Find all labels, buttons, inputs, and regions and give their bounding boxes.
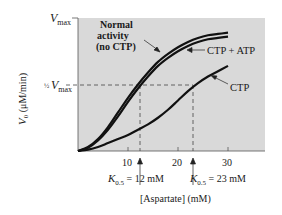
kinetics-chart: Vmax ½ Vmax V0 (μM/min) Normal activity … bbox=[0, 0, 282, 215]
x-tick-20: 20 bbox=[172, 157, 182, 168]
vmax-label: Vmax bbox=[50, 11, 71, 27]
k05-12-label: K0.5 = 12 mM bbox=[107, 172, 164, 187]
x-tick-30: 30 bbox=[222, 157, 232, 168]
ctp-atp-label: CTP + ATP bbox=[207, 45, 255, 56]
x-tick-10: 10 bbox=[122, 157, 132, 168]
svg-text:Normal: Normal bbox=[100, 19, 133, 30]
svg-text:(no CTP): (no CTP) bbox=[96, 41, 136, 53]
svg-text:activity: activity bbox=[97, 30, 129, 41]
ctp-label: CTP bbox=[230, 82, 249, 93]
half-vmax-label: Vmax bbox=[51, 78, 72, 94]
y-axis-label: V0 (μM/min) bbox=[16, 73, 30, 125]
x-axis-label: [Aspartate] (mM) bbox=[140, 193, 211, 205]
half-fraction: ½ bbox=[44, 82, 49, 90]
k05-23-label: K0.5 = 23 mM bbox=[189, 172, 246, 187]
